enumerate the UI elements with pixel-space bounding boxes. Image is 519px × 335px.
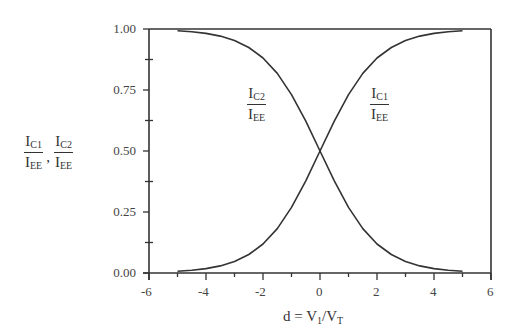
curve-c1-den-sub: EE (376, 112, 388, 123)
x-label-sub2: T (337, 315, 343, 326)
y-axis-label: IC1 IEE , IC2 IEE (24, 134, 73, 171)
x-label-pre: d = V (283, 308, 317, 324)
x-tick-label: -4 (198, 284, 209, 300)
curve-label-ic1: IC1 IEE (370, 86, 389, 123)
curve-c2-num-sub: C2 (253, 91, 265, 102)
y-label-num2-sub: C2 (60, 139, 72, 150)
y-label-num1-sub: C1 (30, 139, 42, 150)
y-tick-label: 0.25 (113, 204, 136, 220)
curve-label-ic2: IC2 IEE (247, 86, 266, 123)
y-tick-label: 0.50 (113, 143, 136, 159)
x-tick-label: -2 (255, 284, 266, 300)
curve-ic2 (178, 31, 463, 272)
y-label-fraction-c2: IC2 IEE (54, 134, 73, 171)
y-label-separator: , (46, 149, 50, 166)
curve-c1-num-sub: C1 (376, 91, 388, 102)
x-axis-label: d = V1/VT (283, 308, 343, 326)
x-tick-label: 4 (430, 284, 437, 300)
x-tick-label: 2 (373, 284, 380, 300)
y-tick-label: 0.75 (113, 82, 136, 98)
y-tick-label: 0.00 (113, 265, 136, 281)
x-tick-label: 6 (487, 284, 494, 300)
x-label-mid: /V (322, 308, 337, 324)
curves (178, 31, 463, 272)
x-tick-label: 0 (316, 284, 323, 300)
y-label-den1-sub: EE (30, 160, 42, 171)
curve-c2-den-sub: EE (253, 112, 265, 123)
x-tick-label: -6 (141, 284, 152, 300)
y-tick-label: 1.00 (113, 21, 136, 37)
y-label-fraction-c1: IC1 IEE (24, 134, 43, 171)
plot-frame (143, 29, 491, 280)
y-label-den2-sub: EE (60, 160, 72, 171)
axis-ticks (143, 29, 491, 280)
